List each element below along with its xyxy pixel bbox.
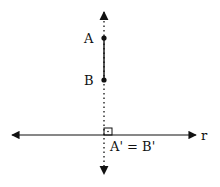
label-r: r (201, 128, 208, 143)
label-b: B (84, 73, 94, 88)
label-projection: A' = B' (109, 139, 155, 154)
label-a: A (83, 31, 94, 46)
right-angle-dot (107, 131, 109, 133)
point-b (101, 77, 106, 82)
point-a (101, 35, 106, 40)
projection-diagram: A B r A' = B' (0, 0, 220, 187)
